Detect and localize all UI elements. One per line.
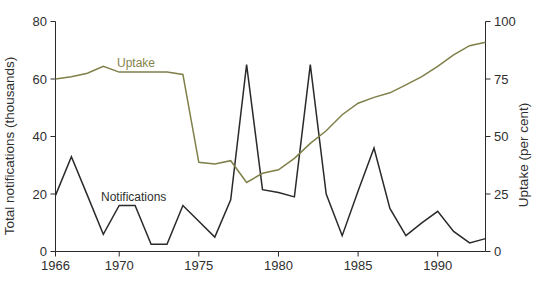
left-tick-label: 40 — [33, 129, 47, 144]
left-tick-label: 20 — [33, 187, 47, 202]
right-tick-label: 100 — [494, 14, 516, 29]
right-axis-ticks: 0255075100 — [486, 14, 516, 259]
chart-figure: 020406080 0255075100 1966197019751980198… — [0, 0, 544, 292]
left-tick-label: 0 — [40, 244, 47, 259]
right-axis-title: Uptake (per cent) — [516, 103, 531, 207]
notifications-line — [56, 65, 486, 245]
right-tick-label: 25 — [494, 187, 508, 202]
left-tick-label: 60 — [33, 72, 47, 87]
x-axis-ticks: 196619701975198019851990 — [41, 252, 452, 274]
chart-canvas: 020406080 0255075100 1966197019751980198… — [0, 0, 544, 292]
x-tick-label: 1966 — [41, 258, 70, 273]
left-tick-label: 80 — [33, 14, 47, 29]
left-axis-ticks: 020406080 — [33, 14, 56, 259]
right-tick-label: 50 — [494, 129, 508, 144]
right-tick-label: 0 — [494, 244, 501, 259]
x-tick-label: 1990 — [423, 258, 452, 273]
x-tick-label: 1980 — [264, 258, 293, 273]
notifications-series-label: Notifications — [101, 190, 166, 204]
x-tick-label: 1970 — [105, 258, 134, 273]
uptake-series-label: Uptake — [117, 56, 155, 70]
x-tick-label: 1975 — [184, 258, 213, 273]
left-axis-title: Total notifications (thousands) — [2, 57, 17, 236]
x-tick-label: 1985 — [344, 258, 373, 273]
right-tick-label: 75 — [494, 72, 508, 87]
